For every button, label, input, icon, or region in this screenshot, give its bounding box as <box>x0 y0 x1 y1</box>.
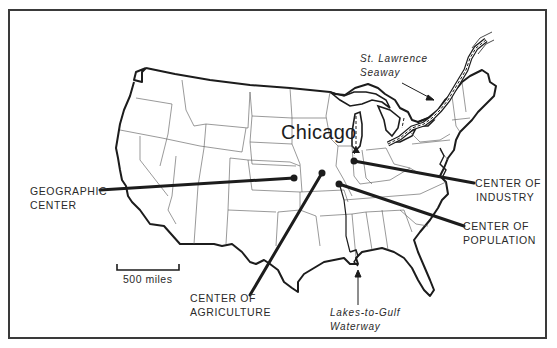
label-line: POPULATION <box>463 233 536 247</box>
scale-bar <box>117 264 179 270</box>
center-of-agriculture-label: CENTER OF AGRICULTURE <box>190 291 271 319</box>
scale-label: 500 miles <box>123 273 172 285</box>
st-lawrence-seaway-path <box>388 32 494 144</box>
label-line: Waterway <box>330 320 400 334</box>
state-boundaries <box>120 80 470 258</box>
label-line: CENTER OF <box>190 291 271 305</box>
label-line: CENTER OF <box>463 219 536 233</box>
label-line: AGRICULTURE <box>190 305 271 319</box>
lake-superior <box>330 92 390 108</box>
geographic-center-label: GEOGRAPHIC CENTER <box>30 184 107 212</box>
label-line: St. Lawrence <box>360 52 428 66</box>
label-line: CENTER OF <box>475 176 541 190</box>
center-of-population-label: CENTER OF POPULATION <box>463 219 536 247</box>
label-line: INDUSTRY <box>475 190 541 204</box>
geographic-center-dot <box>291 175 298 182</box>
label-line: Seaway <box>360 66 428 80</box>
population-center-dot <box>336 181 343 188</box>
us-map <box>0 0 557 348</box>
st-lawrence-seaway-label: St. Lawrence Seaway <box>360 52 428 80</box>
chicago-label: Chicago <box>281 121 356 144</box>
label-line: GEOGRAPHIC <box>30 184 107 198</box>
label-line: CENTER <box>30 198 107 212</box>
us-outline <box>116 68 496 296</box>
label-line: Lakes-to-Gulf <box>330 306 400 320</box>
agriculture-center-dot <box>319 170 326 177</box>
industry-center-dot <box>351 158 358 165</box>
lake-huron <box>378 106 400 136</box>
lakes-to-gulf-waterway-label: Lakes-to-Gulf Waterway <box>330 306 400 334</box>
center-of-industry-label: CENTER OF INDUSTRY <box>475 176 541 204</box>
